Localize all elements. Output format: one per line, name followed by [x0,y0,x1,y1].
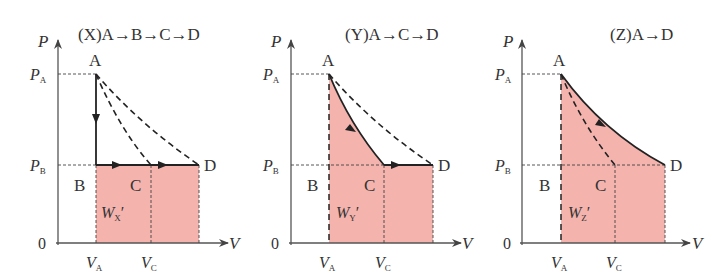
panel-x: (X)A→B→C→D P V 0 A B C D PA PB VA VC WX′ [29,25,242,273]
svg-text:P: P [270,32,281,51]
svg-text:V: V [692,234,705,253]
svg-text:V: V [229,234,242,253]
work-label-y: WY′ [336,204,359,223]
panel-y: (Y)A→C→D P V 0 A B C D PA PB VA VC WY′ [262,25,475,273]
panel-z: (Z)A→D P V 0 A B C D PA PB VA VC WZ′ [494,25,705,273]
svg-text:0: 0 [503,235,511,252]
svg-text:A: A [322,51,335,70]
svg-text:VC: VC [606,254,622,273]
work-label-z: WZ′ [568,204,590,223]
svg-text:PA: PA [494,66,512,85]
pv-diagram-figure: (X)A→B→C→D P V 0 A B C D PA PB VA VC WX′… [0,0,725,280]
svg-text:PA: PA [29,66,47,85]
svg-text:0: 0 [271,235,279,252]
svg-text:B: B [539,176,550,195]
svg-text:VC: VC [141,254,157,273]
svg-text:D: D [438,156,450,175]
svg-text:A: A [553,51,566,70]
svg-text:P: P [502,32,513,51]
svg-text:A: A [89,51,102,70]
work-label-x: WX′ [101,204,124,223]
svg-text:PB: PB [262,157,279,176]
svg-text:D: D [204,156,216,175]
svg-text:0: 0 [38,235,46,252]
svg-text:D: D [670,156,682,175]
svg-text:B: B [74,176,85,195]
svg-text:B: B [307,176,318,195]
panel-title: (Y)A→C→D [345,25,439,44]
svg-text:VA: VA [319,254,336,273]
svg-text:C: C [595,176,606,195]
svg-text:P: P [37,32,48,51]
svg-text:C: C [130,176,141,195]
svg-text:VA: VA [86,254,103,273]
svg-text:PB: PB [29,157,46,176]
panel-title: (X)A→B→C→D [78,25,200,44]
svg-text:VA: VA [551,254,568,273]
svg-text:V: V [462,234,475,253]
svg-text:PA: PA [262,66,280,85]
svg-text:C: C [364,176,375,195]
svg-text:PB: PB [494,157,511,176]
svg-text:VC: VC [375,254,391,273]
panel-title: (Z)A→D [610,25,673,44]
